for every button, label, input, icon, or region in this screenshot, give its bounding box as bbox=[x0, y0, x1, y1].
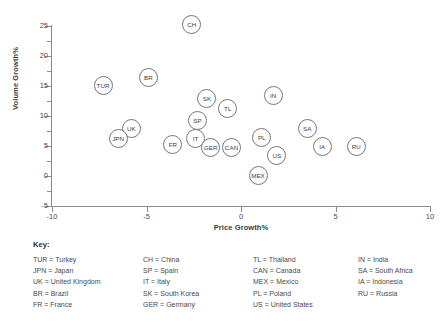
x-tick-label: 10 bbox=[410, 213, 444, 221]
key-column: TL = ThailandCAN = CanadaMEX = MexicoPL … bbox=[253, 254, 358, 310]
key-column: TUR = TurkeyJPN = JapanUK = United Kingd… bbox=[33, 254, 143, 310]
plot-area bbox=[52, 26, 430, 206]
key-column: CH = ChinaSP = SpainIT = ItalySK = South… bbox=[143, 254, 253, 310]
key-entry: RU = Russia bbox=[358, 288, 433, 299]
data-point-marker: SP bbox=[188, 111, 207, 130]
x-tick-label: -10 bbox=[32, 213, 72, 221]
key-column: IN = IndiaSA = South AfricaIA = Indonesi… bbox=[358, 254, 433, 310]
key-entry: CAN = Canada bbox=[253, 265, 358, 276]
key-entry: JPN = Japan bbox=[33, 265, 143, 276]
key-entry: GER = Germany bbox=[143, 299, 253, 310]
key-entry: MEX = Mexico bbox=[253, 276, 358, 287]
data-point-marker: CAN bbox=[222, 138, 241, 157]
key-entry: IN = India bbox=[358, 254, 433, 265]
key-entry: US = United States bbox=[253, 299, 358, 310]
key-entry: UK = United Kingdom bbox=[33, 276, 143, 287]
x-axis-title: Price Growth% bbox=[52, 223, 430, 232]
key-entry: CH = China bbox=[143, 254, 253, 265]
key-entry: TL = Thailand bbox=[253, 254, 358, 265]
scatter-chart-figure: -50510152025 -10-50510 Volume Growth% Pr… bbox=[0, 0, 444, 232]
key-entry: IT = Italy bbox=[143, 276, 253, 287]
key-entry: SK = South Korea bbox=[143, 288, 253, 299]
key-entry: SA = South Africa bbox=[358, 265, 433, 276]
data-point-marker: JPN bbox=[109, 129, 128, 148]
chart-key: Key: TUR = TurkeyJPN = JapanUK = United … bbox=[33, 240, 433, 310]
key-entry: FR = France bbox=[33, 299, 143, 310]
data-point-marker: RU bbox=[347, 137, 366, 156]
key-entry: TUR = Turkey bbox=[33, 254, 143, 265]
data-point-marker: SA bbox=[298, 119, 317, 138]
key-entry: PL = Poland bbox=[253, 288, 358, 299]
y-axis-title: Volume Growth% bbox=[11, 29, 20, 129]
data-point-marker: BR bbox=[139, 68, 158, 87]
data-point-marker: SK bbox=[197, 89, 216, 108]
x-tick-label: 0 bbox=[221, 213, 261, 221]
x-tick-label: 5 bbox=[316, 213, 356, 221]
key-title: Key: bbox=[33, 240, 433, 249]
key-entry: BR = Brazil bbox=[33, 288, 143, 299]
y-tick-label: 0 bbox=[8, 172, 48, 180]
y-tick-label: -5 bbox=[8, 202, 48, 210]
data-point-marker: TUR bbox=[94, 76, 113, 95]
y-tick-label: 5 bbox=[8, 142, 48, 150]
x-tick-label: -5 bbox=[127, 213, 167, 221]
data-point-marker: MEX bbox=[249, 166, 268, 185]
key-columns: TUR = TurkeyJPN = JapanUK = United Kingd… bbox=[33, 254, 433, 310]
data-point-marker: IN bbox=[264, 86, 283, 105]
data-point-marker: US bbox=[267, 146, 286, 165]
key-entry: SP = Spain bbox=[143, 265, 253, 276]
key-entry: IA = Indonesia bbox=[358, 276, 433, 287]
data-point-marker: IA bbox=[313, 137, 332, 156]
